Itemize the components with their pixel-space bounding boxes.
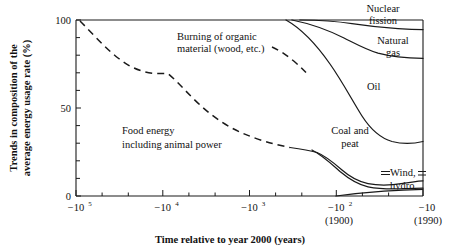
annotation-oil: Oil bbox=[367, 81, 381, 92]
annotation-burning-line1: Burning of organic bbox=[177, 31, 257, 42]
y-tick-label-50: 50 bbox=[61, 103, 72, 114]
annotation-wind-line1: Wind, bbox=[390, 167, 416, 178]
annotation-nuclear-line1: Nuclear bbox=[366, 3, 400, 14]
annotation-coal-line1: Coal and bbox=[331, 125, 369, 136]
annotation-burning-organic: Burning of organic material (wood, etc.) bbox=[177, 31, 265, 55]
x-tick-sublabel-1990: (1990) bbox=[414, 215, 442, 227]
annotation-food-line2: including animal power bbox=[122, 139, 222, 150]
y-axis-title: Trends in composition of the average ene… bbox=[8, 39, 33, 176]
x-axis-title: Time relative to year 2000 (years) bbox=[155, 234, 306, 246]
x-tick-label-1e3: −10 bbox=[241, 202, 257, 213]
annotation-nuclear-fission: Nuclear fission bbox=[366, 3, 400, 26]
energy-composition-chart: Trends in composition of the average ene… bbox=[0, 0, 451, 251]
x-tick-exp-1e5: 5 bbox=[88, 200, 92, 208]
x-tick-label-1e5: −10 bbox=[68, 202, 84, 213]
chart-container: Trends in composition of the average ene… bbox=[0, 0, 451, 251]
annotation-nuclear-line2: fission bbox=[369, 15, 398, 26]
y-tick-label-100: 100 bbox=[55, 15, 71, 26]
y-axis-title-line1: Trends in composition of the bbox=[8, 44, 19, 172]
annotation-wind-line2: hydro bbox=[390, 180, 415, 191]
annotation-gas-line1: Natural bbox=[377, 35, 409, 46]
x-tick-label-1e2: −10 bbox=[328, 202, 344, 213]
annotation-burning-line2: material (wood, etc.) bbox=[177, 43, 265, 55]
x-tick-exp-1e4: 4 bbox=[175, 200, 179, 208]
x-tick-label-1e4: −10 bbox=[155, 202, 171, 213]
x-tick-label-1e1: −10 bbox=[419, 202, 435, 213]
x-tick-exp-1e2: 2 bbox=[349, 200, 353, 208]
x-tick-sublabel-1900: (1900) bbox=[325, 215, 353, 227]
annotation-food-line1: Food energy bbox=[122, 125, 175, 136]
x-tick-exp-1e3: 3 bbox=[262, 200, 266, 208]
annotation-gas-line2: gas bbox=[386, 47, 400, 58]
y-axis-title-line2: average energy usage rate (%) bbox=[21, 39, 33, 176]
annotation-coal-line2: peat bbox=[341, 138, 359, 149]
y-tick-label-0: 0 bbox=[66, 191, 71, 202]
